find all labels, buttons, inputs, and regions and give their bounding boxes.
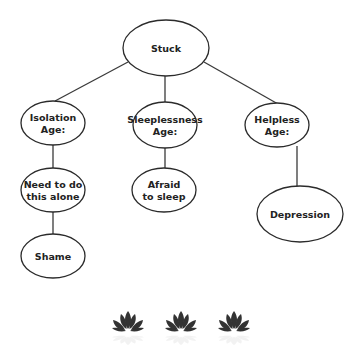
node-label: Shame: [35, 251, 71, 262]
nodes: StuckIsolationAge:SleeplessnessAge:Helpl…: [21, 20, 343, 278]
node-afraid-sleep: Afraidto sleep: [132, 168, 196, 212]
lotus-icon: [112, 311, 144, 345]
node-label: Age:: [41, 124, 65, 135]
node-label: Depression: [270, 209, 330, 220]
node-label: Age:: [265, 126, 289, 137]
node-depression: Depression: [257, 186, 343, 242]
node-helpless: HelplessAge:: [245, 103, 309, 147]
node-label: Afraid: [148, 179, 181, 190]
node-shame: Shame: [21, 234, 85, 278]
node-stuck: Stuck: [123, 20, 209, 76]
node-label: this alone: [27, 191, 80, 202]
node-need-alone: Need to dothis alone: [21, 168, 85, 212]
node-label: Helpless: [254, 114, 300, 125]
node-label: Isolation: [30, 112, 77, 123]
node-label: Sleeplessness: [127, 114, 203, 125]
edge-stuck-to-helpless: [204, 62, 278, 104]
lotus-icon: [218, 311, 250, 345]
node-label: Age:: [153, 126, 177, 137]
lotus-icon: [165, 311, 197, 345]
node-isolation: IsolationAge:: [21, 101, 85, 145]
node-label: Stuck: [151, 43, 182, 54]
tree-diagram: StuckIsolationAge:SleeplessnessAge:Helpl…: [0, 0, 360, 347]
node-sleeplessness: SleeplessnessAge:: [127, 102, 203, 148]
node-label: Need to do: [24, 179, 83, 190]
edge-stuck-to-isolation: [55, 62, 128, 101]
lotus-decorations: [112, 311, 250, 345]
node-label: to sleep: [143, 191, 186, 202]
